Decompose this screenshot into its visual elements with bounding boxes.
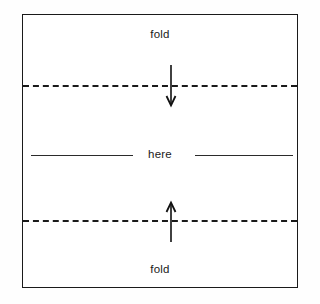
here-label: here xyxy=(0,148,320,160)
up-arrow-icon xyxy=(156,198,186,246)
fold-diagram: fold here fold xyxy=(0,0,320,304)
lower-fold-line xyxy=(23,220,297,222)
bottom-fold-label: fold xyxy=(0,263,320,275)
down-arrow-icon xyxy=(156,62,186,110)
top-fold-label: fold xyxy=(0,28,320,40)
middle-rule-right xyxy=(195,155,293,156)
